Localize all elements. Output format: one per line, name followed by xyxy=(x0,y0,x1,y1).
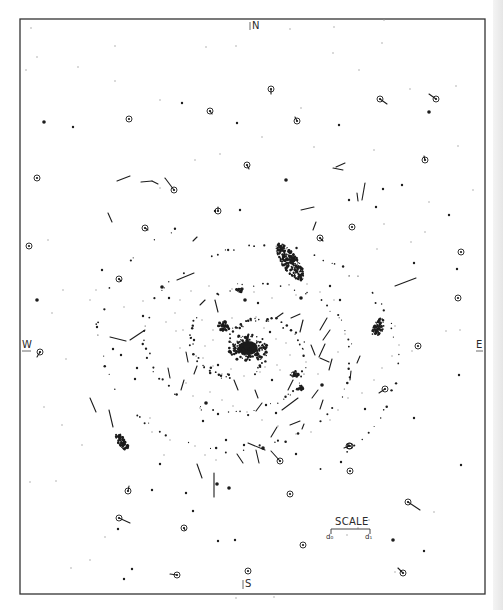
circled-reference-stars xyxy=(26,86,464,578)
page-edge xyxy=(493,0,503,610)
scale-right-label: d₁ xyxy=(365,534,372,541)
spiral-nebula xyxy=(95,228,399,470)
nebula-chart xyxy=(0,0,503,610)
north-label: N xyxy=(252,21,259,31)
west-label: W xyxy=(22,340,32,350)
motion-vectors xyxy=(90,163,416,497)
chart-frame xyxy=(20,19,485,594)
scale-left-label: d₀ xyxy=(326,534,333,541)
faint-stars xyxy=(25,19,473,598)
east-label: E xyxy=(476,340,482,350)
south-label: S xyxy=(245,579,251,589)
scale-title: SCALE xyxy=(335,517,369,527)
